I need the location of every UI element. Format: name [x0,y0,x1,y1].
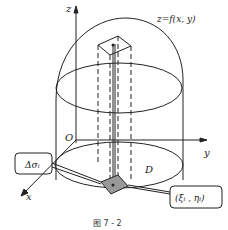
z-axis-label: z [65,3,72,14]
y-axis-label: y [203,147,210,158]
point-label: (ξᵢ , ηᵢ) [175,193,205,203]
origin-label: O [65,132,73,143]
area-element-patch [101,175,128,194]
y-axis-arrow-icon [200,138,207,142]
mid-ellipse [56,63,182,113]
double-integral-diagram: z z=f(x, y) O y x D Δσᵢ (ξᵢ , ηᵢ) 图 7 - … [0,0,228,230]
surface-dome [56,18,183,180]
delta-sigma-label: Δσᵢ [24,160,40,170]
z-axis-arrow-icon [74,6,78,13]
x-axis-label: x [26,191,32,202]
figure-caption: 图 7 - 2 [93,219,122,228]
region-label: D [144,164,153,175]
surface-label: z=f(x, y) [156,14,196,24]
